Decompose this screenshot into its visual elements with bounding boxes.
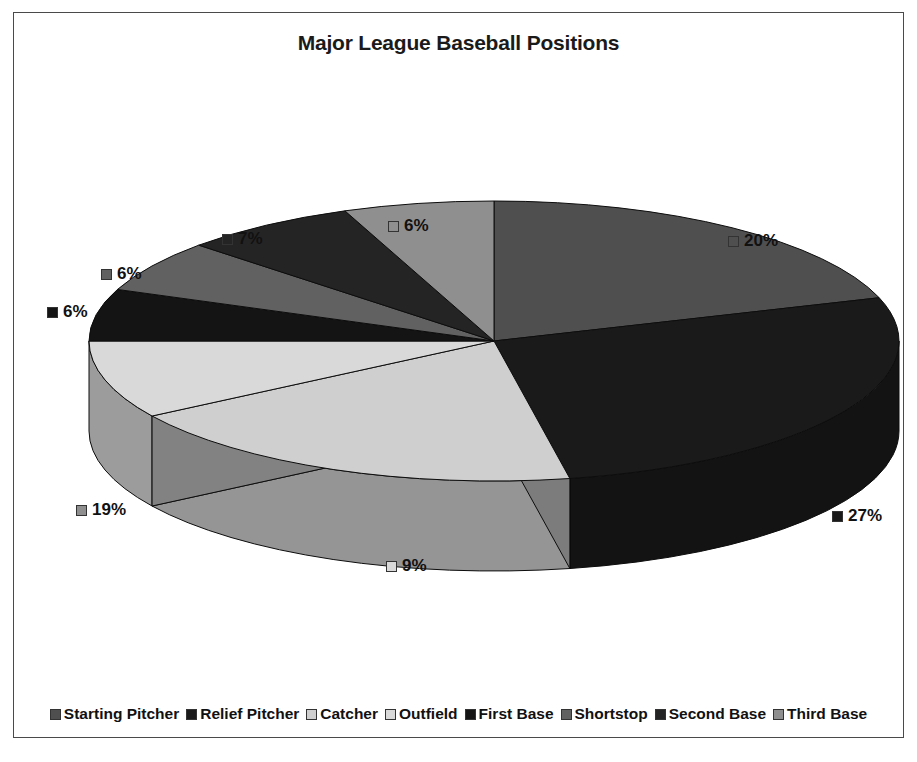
legend-item-label: Third Base (787, 705, 867, 723)
legend-item[interactable]: Starting Pitcher (50, 705, 179, 723)
slice-value-text: 9% (402, 556, 427, 576)
slice-value-text: 7% (238, 229, 263, 249)
slice-swatch-icon (76, 505, 87, 516)
slice-swatch-icon (101, 269, 112, 280)
legend-item-label: Catcher (320, 705, 378, 723)
legend-swatch-icon (465, 709, 476, 720)
pie-chart-svg (14, 13, 904, 738)
pie-chart-plot-area: 20%27%9%19%6%6%7%6% (14, 13, 904, 738)
legend-swatch-icon (561, 709, 572, 720)
legend-swatch-icon (773, 709, 784, 720)
slice-swatch-icon (728, 236, 739, 247)
pie-slice-value-label: 9% (386, 556, 427, 576)
slice-value-text: 6% (117, 264, 142, 284)
pie-slice-value-label: 6% (101, 264, 142, 284)
slice-value-text: 27% (848, 506, 882, 526)
slice-value-text: 19% (92, 500, 126, 520)
legend-item[interactable]: Shortstop (561, 705, 648, 723)
slice-swatch-icon (832, 511, 843, 522)
legend-swatch-icon (306, 709, 317, 720)
slice-value-text: 20% (744, 231, 778, 251)
legend-item[interactable]: Outfield (385, 705, 458, 723)
legend-item[interactable]: Relief Pitcher (186, 705, 299, 723)
legend-item-label: Outfield (399, 705, 458, 723)
slice-swatch-icon (222, 234, 233, 245)
pie-slice-value-label: 6% (47, 302, 88, 322)
pie-slice-value-label: 6% (388, 216, 429, 236)
legend-item-label: Shortstop (575, 705, 648, 723)
slice-swatch-icon (386, 561, 397, 572)
pie-slice-value-label: 7% (222, 229, 263, 249)
legend-swatch-icon (50, 709, 61, 720)
legend-item-label: Starting Pitcher (64, 705, 179, 723)
slice-value-text: 6% (63, 302, 88, 322)
legend-item-label: Relief Pitcher (200, 705, 299, 723)
legend-item[interactable]: Catcher (306, 705, 378, 723)
slice-swatch-icon (388, 221, 399, 232)
legend-item-label: First Base (479, 705, 554, 723)
pie-slice-value-label: 19% (76, 500, 126, 520)
pie-slice-value-label: 27% (832, 506, 882, 526)
legend-item-label: Second Base (669, 705, 766, 723)
legend-swatch-icon (385, 709, 396, 720)
chart-frame: Major League Baseball Positions 20%27%9%… (13, 12, 904, 738)
slice-value-text: 6% (404, 216, 429, 236)
chart-legend: Starting PitcherRelief PitcherCatcherOut… (14, 705, 903, 723)
legend-swatch-icon (655, 709, 666, 720)
legend-item[interactable]: First Base (465, 705, 554, 723)
legend-swatch-icon (186, 709, 197, 720)
legend-item[interactable]: Third Base (773, 705, 867, 723)
pie-slice-value-label: 20% (728, 231, 778, 251)
slice-swatch-icon (47, 307, 58, 318)
legend-item[interactable]: Second Base (655, 705, 766, 723)
